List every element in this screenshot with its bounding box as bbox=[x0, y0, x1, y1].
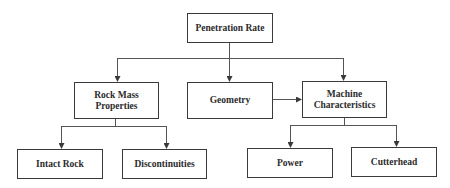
node-label-line1: Machine bbox=[327, 89, 362, 100]
node-label: Penetration Rate bbox=[196, 23, 265, 34]
node-machine-characteristics: Machine Characteristics bbox=[302, 81, 387, 118]
node-label: Cutterhead bbox=[371, 157, 417, 168]
node-power: Power bbox=[247, 148, 333, 178]
node-discontinuities: Discontinuities bbox=[122, 149, 207, 179]
node-rock-mass-properties: Rock Mass Properties bbox=[74, 82, 159, 119]
node-penetration-rate: Penetration Rate bbox=[187, 13, 273, 43]
node-cutterhead: Cutterhead bbox=[351, 147, 437, 177]
node-label-line2: Properties bbox=[95, 101, 137, 112]
node-label: Power bbox=[277, 158, 303, 169]
node-label: Discontinuities bbox=[134, 159, 194, 170]
node-label: Intact Rock bbox=[36, 159, 84, 170]
node-label-line1: Rock Mass bbox=[94, 90, 139, 101]
node-label-line2: Characteristics bbox=[314, 100, 376, 111]
node-intact-rock: Intact Rock bbox=[17, 149, 103, 179]
node-geometry: Geometry bbox=[187, 82, 273, 119]
node-label: Geometry bbox=[210, 95, 251, 106]
